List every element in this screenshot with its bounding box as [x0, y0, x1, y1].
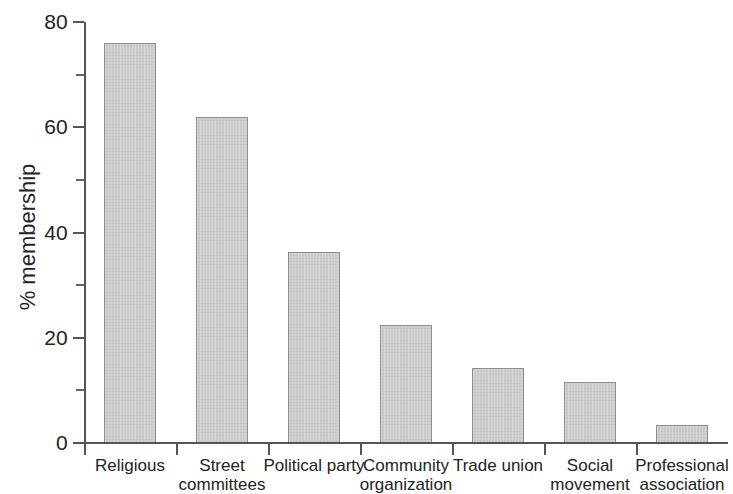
y-tick-label-wrap: 20: [0, 327, 68, 349]
x-tick: [360, 444, 362, 455]
y-tick-minor: [76, 74, 84, 76]
x-category-label: Trade union: [446, 456, 550, 475]
x-category-label-line2: association: [630, 475, 733, 494]
y-tick-major: [73, 21, 84, 23]
x-category-label: Socialmovement: [538, 456, 642, 494]
bar: [288, 252, 340, 443]
x-category-label-line1: Community: [363, 456, 449, 475]
x-axis-line: [84, 442, 728, 444]
x-category-label-line2: movement: [538, 475, 642, 494]
y-tick-major: [73, 337, 84, 339]
x-category-label: Political party: [262, 456, 366, 475]
y-tick-minor: [76, 389, 84, 391]
y-tick-label: 20: [2, 327, 68, 348]
x-tick: [84, 444, 86, 455]
x-tick: [176, 444, 178, 455]
y-tick-label-wrap: 60: [0, 116, 68, 138]
y-tick-major: [73, 232, 84, 234]
y-tick-label: 80: [2, 11, 68, 32]
y-axis-line: [84, 22, 86, 443]
y-tick-major: [73, 442, 84, 444]
x-category-label-line1: Political party: [263, 456, 364, 475]
x-tick: [268, 444, 270, 455]
x-category-label-line1: Religious: [95, 456, 165, 475]
x-category-label-line1: Social: [567, 456, 613, 475]
y-tick-minor: [76, 284, 84, 286]
x-tick: [544, 444, 546, 455]
x-tick: [636, 444, 638, 455]
x-tick: [452, 444, 454, 455]
y-tick-label-wrap: 40: [0, 222, 68, 244]
x-category-label: Religious: [78, 456, 182, 475]
bar: [564, 382, 616, 443]
x-category-label-line1: Street: [199, 456, 244, 475]
x-category-label-line2: organization: [354, 475, 458, 494]
bar: [196, 117, 248, 443]
y-tick-label: 40: [2, 222, 68, 243]
y-tick-label-wrap: 0: [0, 432, 68, 454]
y-tick-minor: [76, 179, 84, 181]
x-category-label-line1: Professional: [635, 456, 729, 475]
x-category-label-line1: Trade union: [453, 456, 543, 475]
bar: [472, 368, 524, 443]
y-tick-label: 0: [2, 432, 68, 453]
x-category-label: Professionalassociation: [630, 456, 733, 494]
y-tick-label: 60: [2, 116, 68, 137]
bar: [104, 43, 156, 443]
x-category-label: Streetcommittees: [170, 456, 274, 494]
x-category-label: Communityorganization: [354, 456, 458, 494]
y-tick-major: [73, 126, 84, 128]
bar: [656, 425, 708, 443]
x-category-label-line2: committees: [170, 475, 274, 494]
bar: [380, 325, 432, 443]
y-tick-label-wrap: 80: [0, 11, 68, 33]
